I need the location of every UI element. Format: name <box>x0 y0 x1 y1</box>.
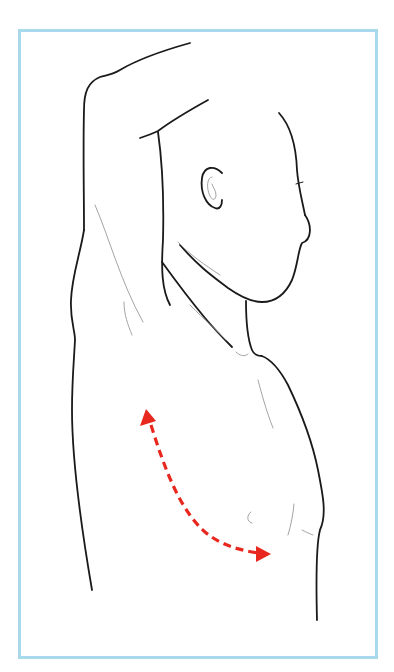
ear-outline <box>202 168 222 209</box>
clavicle-line <box>190 305 226 340</box>
neck-side-line <box>162 262 232 347</box>
nipple <box>248 512 252 523</box>
ear-inner-detail <box>208 177 216 199</box>
arrow-head-bottom-icon <box>256 546 271 562</box>
clavicle-notch <box>236 352 248 356</box>
arrow-head-top-icon <box>140 409 156 426</box>
arm-outer-line <box>84 43 190 230</box>
jaw-shadow-line <box>178 242 220 275</box>
upper-arm-underside <box>158 132 170 305</box>
arm-inner-line <box>140 100 208 138</box>
back-line <box>71 230 92 590</box>
breast-side-mark <box>302 530 313 535</box>
arrow-dashed-curve <box>151 425 258 553</box>
neck-front-line <box>246 301 324 620</box>
examination-path-arrow <box>140 409 271 562</box>
chest-contour <box>258 380 273 428</box>
head-back-line <box>279 113 305 215</box>
face-profile-line <box>180 215 310 302</box>
armpit-crease-1 <box>95 205 143 322</box>
breast-underline <box>288 504 294 535</box>
body-illustration <box>0 0 394 672</box>
armpit-crease-2 <box>124 302 132 335</box>
